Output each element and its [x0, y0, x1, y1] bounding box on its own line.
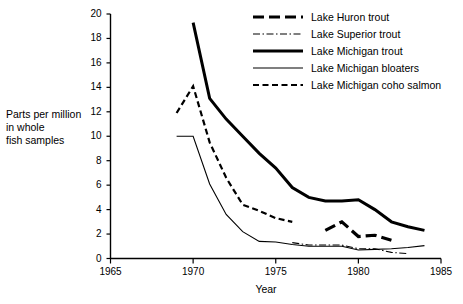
series-line-lake-michigan-coho-salmon	[177, 86, 293, 222]
legend-line-swatch	[252, 78, 304, 92]
y-tick-label: 18	[86, 33, 102, 43]
y-axis-title-line: Parts per million	[6, 108, 106, 121]
legend-item[interactable]: Lake Michigan coho salmon	[252, 76, 458, 93]
legend-item[interactable]: Lake Michigan bloaters	[252, 59, 458, 76]
y-axis-title-line: in whole	[6, 121, 106, 134]
chart-legend: Lake Huron troutLake Superior troutLake …	[252, 8, 458, 93]
y-tick-label: 14	[86, 82, 102, 92]
legend-item[interactable]: Lake Huron trout	[252, 8, 458, 25]
x-tick-label: 1970	[173, 267, 213, 277]
x-axis-ticks	[111, 259, 442, 264]
y-tick-label: 6	[86, 180, 102, 190]
series-line-lake-huron-trout	[325, 222, 391, 240]
line-chart-figure: 02468101214161820 19651970197519801985 P…	[0, 0, 463, 304]
legend-line-swatch	[252, 61, 304, 75]
x-tick-label: 1980	[338, 267, 378, 277]
legend-line-swatch	[252, 10, 304, 24]
legend-line-swatch	[252, 27, 304, 41]
y-axis-title: Parts per millionin wholefish samples	[6, 108, 106, 147]
y-axis-title-line: fish samples	[6, 134, 106, 147]
legend-item[interactable]: Lake Superior trout	[252, 25, 458, 42]
y-tick-label: 0	[86, 254, 102, 264]
y-tick-label: 8	[86, 156, 102, 166]
legend-label: Lake Michigan bloaters	[311, 62, 419, 74]
legend-label: Lake Superior trout	[311, 28, 400, 40]
x-tick-label: 1965	[91, 267, 131, 277]
y-tick-label: 16	[86, 58, 102, 68]
y-tick-label: 20	[86, 9, 102, 19]
x-tick-label: 1985	[421, 267, 461, 277]
legend-label: Lake Huron trout	[311, 11, 389, 23]
y-tick-label: 2	[86, 229, 102, 239]
y-tick-label: 4	[86, 205, 102, 215]
x-axis-title: Year	[236, 283, 296, 295]
legend-label: Lake Michigan trout	[311, 45, 403, 57]
legend-item[interactable]: Lake Michigan trout	[252, 42, 458, 59]
x-tick-label: 1975	[256, 267, 296, 277]
legend-label: Lake Michigan coho salmon	[311, 79, 441, 91]
legend-line-swatch	[252, 44, 304, 58]
